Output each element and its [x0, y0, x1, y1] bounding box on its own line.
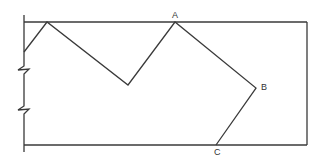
label-point-b: B [261, 82, 267, 92]
diagram-canvas: A B C [0, 0, 324, 165]
left-wall-with-breaks [18, 15, 29, 152]
label-point-a: A [172, 10, 178, 20]
zigzag-ray-path [24, 22, 256, 145]
label-point-c: C [214, 147, 221, 157]
point-labels: A B C [172, 10, 267, 157]
